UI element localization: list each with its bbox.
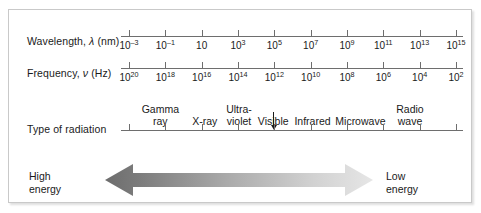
axis-tick	[274, 30, 275, 36]
axis-tick-label: 105	[267, 40, 282, 51]
axis-tick	[202, 30, 203, 36]
axis-tick-label: 106	[376, 72, 391, 83]
axis-tick-label: 1015	[446, 40, 465, 51]
axis-tick	[202, 62, 203, 68]
axis-tick	[165, 124, 166, 130]
axis-tick	[165, 30, 166, 36]
axis-tick	[129, 62, 130, 68]
wavelength-row-label: Wavelength, λ (nm)	[27, 35, 119, 47]
axis-tick	[347, 62, 348, 68]
radiation-band-label-line: ray	[142, 116, 179, 128]
axis-tick-label: 1012	[265, 72, 284, 83]
radiation-band-label-line: Ultra-	[226, 104, 252, 116]
axis-tick-label: 103	[230, 40, 245, 51]
axis-tick-label: 108	[339, 72, 354, 83]
axis-tick	[347, 30, 348, 36]
axis-tick	[383, 124, 384, 130]
radiation-band-label: Infrared	[294, 116, 330, 128]
axis-tick	[165, 62, 166, 68]
radiation-band-label-line: Gamma	[142, 104, 179, 116]
high-energy-line1: High	[29, 170, 61, 183]
axis-tick-label: 1020	[119, 72, 138, 83]
axis-tick-label: 1018	[156, 72, 175, 83]
axis-tick	[420, 30, 421, 36]
axis-tick-label: 1010	[301, 72, 320, 83]
frequency-row-label: Frequency, ν (Hz)	[27, 67, 111, 79]
axis-tick	[347, 124, 348, 130]
radiation-band-label-line: Radio	[396, 104, 423, 116]
wavelength-label-suffix: (nm)	[94, 35, 119, 47]
axis-tick-label: 102	[448, 72, 463, 83]
axis-tick	[238, 30, 239, 36]
wavelength-label-prefix: Wavelength,	[27, 35, 89, 47]
axis-tick-label: 10–3	[119, 40, 138, 51]
axis-tick	[311, 124, 312, 130]
axis-tick-label: 107	[303, 40, 318, 51]
axis-tick	[129, 30, 130, 36]
axis-tick-label: 104	[412, 72, 427, 83]
axis-tick	[202, 124, 203, 130]
radiation-band-label-line: Infrared	[294, 116, 330, 128]
radiation-row-label: Type of radiation	[27, 123, 106, 135]
radiation-band-label-line: Microwave	[335, 116, 385, 128]
axis-tick	[238, 62, 239, 68]
radiation-band-label: Gammaray	[142, 104, 179, 127]
axis-tick	[456, 62, 457, 68]
radiation-band-label-line: X-ray	[192, 116, 217, 128]
axis-tick	[311, 62, 312, 68]
axis-tick	[456, 124, 457, 130]
axis-tick	[383, 30, 384, 36]
axis-tick	[129, 124, 130, 130]
axis-tick-label: 109	[339, 40, 354, 51]
axis-tick-label: 10–1	[156, 40, 175, 51]
axis-tick	[420, 124, 421, 130]
axis-tick	[311, 30, 312, 36]
axis-tick	[274, 124, 275, 130]
axis-tick-label: 10	[196, 40, 207, 51]
high-energy-label: High energy	[29, 170, 61, 195]
radiation-band-label: X-ray	[192, 116, 217, 128]
axis-tick	[420, 62, 421, 68]
axis-tick-label: 1011	[374, 40, 393, 51]
axis-tick-label: 1016	[192, 72, 211, 83]
high-energy-line2: energy	[29, 183, 61, 196]
axis-tick	[274, 62, 275, 68]
frequency-label-prefix: Frequency,	[27, 67, 83, 79]
frequency-axis-line	[121, 68, 463, 69]
radiation-axis-line	[121, 130, 463, 131]
low-energy-line2: energy	[386, 183, 418, 196]
axis-tick	[383, 62, 384, 68]
energy-gradient-arrow-icon	[105, 162, 373, 198]
electromagnetic-spectrum-figure: Wavelength, λ (nm) 10–310–11010310510710…	[8, 9, 472, 203]
axis-tick	[456, 30, 457, 36]
wavelength-axis-line	[121, 36, 463, 37]
axis-tick-label: 1013	[410, 40, 429, 51]
frequency-label-suffix: (Hz)	[88, 67, 111, 79]
low-energy-line1: Low	[386, 170, 418, 183]
low-energy-label: Low energy	[386, 170, 418, 195]
axis-tick	[238, 124, 239, 130]
radiation-band-label: Microwave	[335, 116, 385, 128]
axis-tick-label: 1014	[228, 72, 247, 83]
